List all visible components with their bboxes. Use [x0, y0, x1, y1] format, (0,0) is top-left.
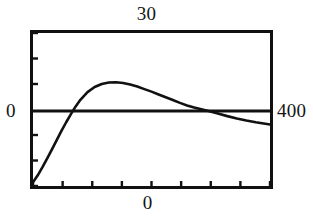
plot-area: [0, 0, 313, 217]
graph-figure: 30 0 400 0: [0, 0, 313, 217]
plot-svg: [0, 0, 313, 217]
